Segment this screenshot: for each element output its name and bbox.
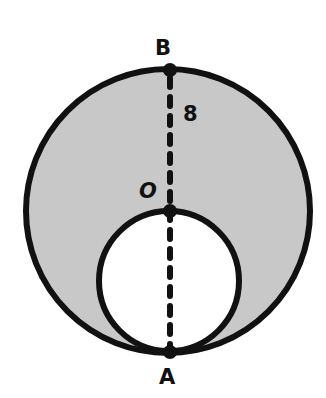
point-a	[163, 345, 177, 359]
label-a: A	[159, 365, 176, 389]
label-o: O	[139, 179, 157, 203]
diagram-canvas: B 8 O A	[0, 0, 326, 398]
label-radius-8: 8	[183, 102, 198, 126]
point-b	[163, 63, 177, 77]
label-b: B	[155, 36, 171, 60]
point-o	[163, 204, 177, 218]
circles-diagram: B 8 O A	[0, 0, 326, 398]
